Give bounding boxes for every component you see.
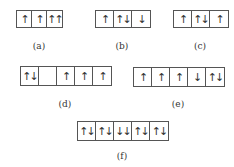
orbital-cell: ↑ bbox=[96, 11, 114, 27]
orbital-cell: ↓ bbox=[132, 11, 150, 27]
orbital-diagram-e: ↑ ↑ ↑ ↓ ↑↓ bbox=[133, 67, 225, 87]
orbital-cell: ↑ bbox=[57, 67, 75, 85]
orbital-cell: ↑↓ bbox=[96, 122, 114, 140]
orbital-cell: ↑↑ bbox=[47, 11, 62, 27]
orbital-cell: ↑↓ bbox=[114, 11, 132, 27]
orbital-diagram-a: ↑ ↑ ↑↑ bbox=[16, 10, 63, 28]
orbital-boxes: ↑ ↑↓ ↑ bbox=[173, 10, 229, 28]
orbital-boxes: ↑ ↑ ↑ ↓ ↑↓ bbox=[133, 67, 225, 87]
orbital-cell: ↑ bbox=[170, 68, 188, 86]
orbital-cell: ↑ bbox=[17, 11, 32, 27]
orbital-boxes: ↑ ↑↓ ↓ bbox=[95, 10, 151, 28]
orbital-cell: ↑ bbox=[93, 67, 111, 85]
orbital-cell: ↑ bbox=[152, 68, 170, 86]
orbital-diagram-c: ↑ ↑↓ ↑ bbox=[173, 10, 229, 28]
diagram-label-e: (e) bbox=[163, 99, 193, 109]
orbital-cell bbox=[39, 67, 57, 85]
orbital-cell: ↑ bbox=[210, 11, 228, 27]
orbital-cell: ↓↓ bbox=[114, 122, 132, 140]
diagram-label-b: (b) bbox=[107, 41, 137, 51]
orbital-diagram-d: ↑↓ ↑ ↑ ↑ bbox=[20, 66, 112, 86]
orbital-cell: ↑ bbox=[32, 11, 47, 27]
orbital-cell: ↓ bbox=[188, 68, 206, 86]
diagram-label-f: (f) bbox=[107, 151, 137, 161]
orbital-diagram-f: ↑↓ ↑↓ ↓↓ ↑↓ ↑↓ bbox=[77, 121, 169, 141]
orbital-cell: ↑↓ bbox=[132, 122, 150, 140]
orbital-cell: ↑↓ bbox=[78, 122, 96, 140]
orbital-diagram-b: ↑ ↑↓ ↓ bbox=[95, 10, 151, 28]
orbital-cell: ↑↓ bbox=[192, 11, 210, 27]
orbital-cell: ↑ bbox=[75, 67, 93, 85]
diagram-label-d: (d) bbox=[50, 99, 80, 109]
orbital-cell: ↑↓ bbox=[21, 67, 39, 85]
orbital-boxes: ↑↓ ↑↓ ↓↓ ↑↓ ↑↓ bbox=[77, 121, 169, 141]
orbital-cell: ↑ bbox=[174, 11, 192, 27]
orbital-boxes: ↑ ↑ ↑↑ bbox=[16, 10, 63, 28]
diagram-label-c: (c) bbox=[185, 41, 215, 51]
orbital-cell: ↑↓ bbox=[150, 122, 168, 140]
orbital-cell: ↑ bbox=[134, 68, 152, 86]
orbital-cell: ↑↓ bbox=[206, 68, 224, 86]
orbital-boxes: ↑↓ ↑ ↑ ↑ bbox=[20, 66, 112, 86]
diagram-label-a: (a) bbox=[24, 41, 54, 51]
